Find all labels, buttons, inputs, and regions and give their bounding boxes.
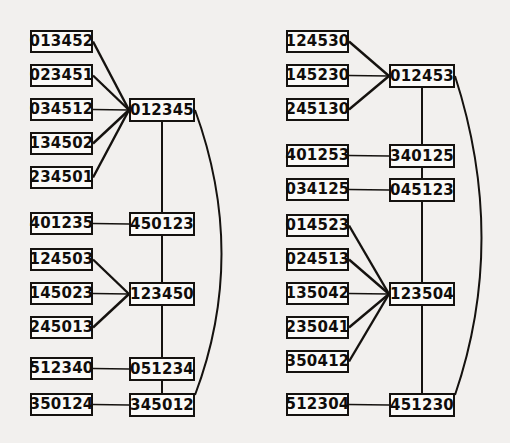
node-451230[interactable]: 451230 (389, 393, 455, 417)
node-label: 245013 (30, 320, 94, 335)
node-145023[interactable]: 145023 (30, 282, 93, 305)
node-label: 345012 (130, 398, 194, 413)
node-label: 451230 (390, 398, 454, 413)
node-label: 245130 (286, 102, 350, 117)
node-512340[interactable]: 512340 (30, 357, 93, 380)
node-145230[interactable]: 145230 (286, 64, 349, 87)
node-label: 145230 (286, 68, 350, 83)
right-diagram-arc (455, 76, 482, 395)
node-label: 234501 (30, 170, 94, 185)
diagram-canvas: 0134520234510345121345022345014012351245… (0, 0, 510, 443)
node-label: 135042 (286, 286, 350, 301)
node-124530[interactable]: 124530 (286, 30, 349, 53)
left-diagram-arc (195, 110, 222, 395)
node-label: 012345 (130, 103, 194, 118)
node-124503[interactable]: 124503 (30, 248, 93, 271)
node-label: 350412 (286, 354, 350, 369)
node-label: 034512 (30, 102, 94, 117)
node-label: 024513 (286, 252, 350, 267)
right-diagram-edge-10 (349, 405, 389, 406)
node-051234[interactable]: 051234 (129, 357, 195, 381)
left-diagram-edge-7 (93, 294, 129, 295)
node-label: 145023 (30, 286, 94, 301)
node-123504[interactable]: 123504 (389, 282, 455, 306)
node-label: 023451 (30, 68, 94, 83)
node-013452[interactable]: 013452 (30, 30, 93, 53)
node-label: 512340 (30, 361, 94, 376)
right-diagram-edge-1 (349, 76, 389, 77)
node-340125[interactable]: 340125 (389, 144, 455, 168)
node-label: 450123 (130, 217, 194, 232)
node-label: 124530 (286, 34, 350, 49)
node-401253[interactable]: 401253 (286, 144, 349, 167)
node-024513[interactable]: 024513 (286, 248, 349, 271)
left-diagram-edge-1 (93, 76, 129, 111)
node-label: 401253 (286, 148, 350, 163)
node-label: 013452 (30, 34, 94, 49)
left-diagram-edge-4 (93, 110, 129, 178)
right-diagram-edge-3 (349, 156, 389, 157)
node-034512[interactable]: 034512 (30, 98, 93, 121)
node-label: 134502 (30, 136, 94, 151)
left-diagram-edge-5 (93, 224, 129, 225)
node-234501[interactable]: 234501 (30, 166, 93, 189)
left-diagram-edge-6 (93, 260, 129, 295)
node-135042[interactable]: 135042 (286, 282, 349, 305)
node-label: 123450 (130, 287, 194, 302)
node-label: 401235 (30, 216, 94, 231)
node-134502[interactable]: 134502 (30, 132, 93, 155)
right-diagram-edge-5 (349, 226, 389, 295)
node-123450[interactable]: 123450 (129, 282, 195, 306)
node-245013[interactable]: 245013 (30, 316, 93, 339)
right-diagram-edge-0 (349, 42, 389, 77)
node-350124[interactable]: 350124 (30, 393, 93, 416)
node-label: 123504 (390, 287, 454, 302)
node-label: 012453 (390, 69, 454, 84)
node-012453[interactable]: 012453 (389, 64, 455, 88)
right-diagram-edge-8 (349, 294, 389, 328)
node-012345[interactable]: 012345 (129, 98, 195, 122)
node-450123[interactable]: 450123 (129, 212, 195, 236)
node-label: 034125 (286, 182, 350, 197)
node-label: 512304 (286, 397, 350, 412)
node-401235[interactable]: 401235 (30, 212, 93, 235)
node-034125[interactable]: 034125 (286, 178, 349, 201)
left-diagram-edge-3 (93, 110, 129, 144)
right-diagram-edge-2 (349, 76, 389, 110)
node-345012[interactable]: 345012 (129, 393, 195, 417)
node-023451[interactable]: 023451 (30, 64, 93, 87)
node-label: 340125 (390, 149, 454, 164)
node-label: 124503 (30, 252, 94, 267)
node-045123[interactable]: 045123 (389, 178, 455, 202)
right-diagram-edge-6 (349, 260, 389, 295)
left-diagram-edge-0 (93, 42, 129, 111)
node-350412[interactable]: 350412 (286, 350, 349, 373)
node-label: 014523 (286, 218, 350, 233)
node-label: 350124 (30, 397, 94, 412)
node-label: 045123 (390, 183, 454, 198)
left-diagram-edge-8 (93, 294, 129, 328)
node-label: 235041 (286, 320, 350, 335)
node-235041[interactable]: 235041 (286, 316, 349, 339)
node-512304[interactable]: 512304 (286, 393, 349, 416)
left-diagram-edge-10 (93, 405, 129, 406)
right-diagram-edge-9 (349, 294, 389, 362)
node-label: 051234 (130, 362, 194, 377)
left-diagram-edge-2 (93, 110, 129, 111)
right-diagram-edge-7 (349, 294, 389, 295)
node-014523[interactable]: 014523 (286, 214, 349, 237)
right-diagram-edge-4 (349, 190, 389, 191)
node-245130[interactable]: 245130 (286, 98, 349, 121)
left-diagram-edge-9 (93, 369, 129, 370)
